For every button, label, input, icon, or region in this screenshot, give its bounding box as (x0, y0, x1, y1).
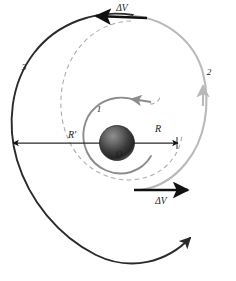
radius-R-prime-label: R' (67, 129, 77, 140)
radius-R-label: R (154, 123, 161, 134)
delta-v-bottom-label: ΔV (154, 196, 168, 206)
central-body-label: O (116, 149, 122, 159)
diagram-canvas: ΔV ΔV 3 2 1 R R' O (0, 0, 236, 281)
orbit-diagram: ΔV ΔV 3 2 1 R R' O (0, 0, 236, 281)
orbit-3-label: 3 (21, 62, 27, 72)
delta-v-top-label: ΔV (115, 3, 129, 13)
orbit-1-label: 1 (97, 104, 102, 114)
orbit-2-label: 2 (207, 67, 212, 77)
